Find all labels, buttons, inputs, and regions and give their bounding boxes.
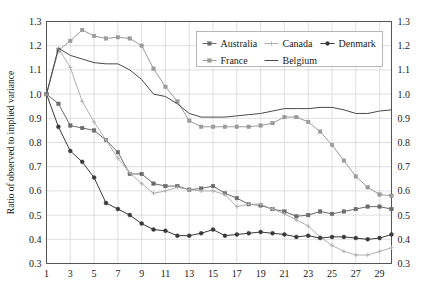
data-point-marker bbox=[211, 228, 215, 232]
data-point-marker bbox=[390, 207, 394, 211]
data-point-marker bbox=[140, 44, 144, 48]
data-point-marker bbox=[271, 121, 275, 125]
data-point-marker bbox=[326, 42, 330, 46]
legend-entry-label: Denmark bbox=[339, 38, 376, 49]
y-axis-tick-label-left: 0.3 bbox=[29, 258, 42, 269]
data-point-marker bbox=[306, 213, 310, 217]
data-point-marker bbox=[235, 125, 239, 129]
x-axis-tick-label: 25 bbox=[327, 268, 337, 279]
data-point-marker bbox=[366, 237, 370, 241]
x-axis-tick-label: 9 bbox=[139, 268, 144, 279]
data-point-marker bbox=[211, 184, 215, 188]
data-point-marker bbox=[128, 213, 132, 217]
data-point-marker bbox=[295, 115, 299, 119]
x-axis-tick-label: 17 bbox=[232, 268, 242, 279]
y-axis-tick-label-right: 1.3 bbox=[398, 16, 411, 27]
data-point-marker bbox=[390, 194, 394, 198]
chart-legend: AustraliaCanadaDenmarkFranceBelgium bbox=[197, 32, 383, 67]
data-point-marker bbox=[342, 235, 346, 239]
data-point-marker bbox=[223, 234, 227, 238]
data-point-marker bbox=[366, 205, 370, 209]
data-point-marker bbox=[164, 85, 168, 89]
data-point-marker bbox=[57, 102, 61, 106]
x-axis-tick-label: 1 bbox=[44, 268, 49, 279]
data-point-marker bbox=[247, 231, 251, 235]
y-axis-tick-label-right: 1.1 bbox=[398, 64, 411, 75]
data-point-marker bbox=[235, 232, 239, 236]
y-axis-title: Ratio of observed to implied variance bbox=[6, 71, 16, 214]
data-point-marker bbox=[152, 228, 156, 232]
y-axis-tick-label-right: 1.0 bbox=[398, 89, 411, 100]
data-point-marker bbox=[116, 35, 120, 39]
x-axis-tick-label: 7 bbox=[115, 268, 120, 279]
data-point-marker bbox=[342, 210, 346, 214]
y-axis-tick-label-left: 1.2 bbox=[29, 40, 42, 51]
series-line bbox=[47, 48, 392, 255]
data-point-marker bbox=[152, 182, 156, 186]
data-point-marker bbox=[247, 125, 251, 129]
y-axis-tick-label-left: 0.4 bbox=[29, 234, 42, 245]
y-axis-tick-label-right: 0.3 bbox=[398, 258, 411, 269]
data-point-marker bbox=[92, 176, 96, 180]
legend-entry-label: Belgium bbox=[283, 55, 318, 66]
data-point-marker bbox=[175, 234, 179, 238]
data-point-marker bbox=[199, 125, 203, 129]
data-point-marker bbox=[294, 235, 298, 239]
line-chart: 0.30.40.50.60.70.80.91.01.11.21.30.30.40… bbox=[0, 0, 431, 292]
data-point-marker bbox=[211, 125, 215, 129]
x-axis-tick-label: 3 bbox=[68, 268, 73, 279]
x-axis-tick-label: 19 bbox=[256, 268, 266, 279]
data-point-marker bbox=[128, 37, 132, 41]
data-point-marker bbox=[390, 232, 394, 236]
y-axis-tick-label-right: 1.2 bbox=[398, 40, 411, 51]
data-point-marker bbox=[208, 59, 212, 63]
y-axis-tick-label-left: 0.6 bbox=[29, 185, 42, 196]
y-axis-tick-label-right: 0.7 bbox=[398, 161, 411, 172]
data-point-marker bbox=[259, 230, 263, 234]
data-point-marker bbox=[208, 42, 212, 46]
y-axis-tick-label-left: 0.8 bbox=[29, 137, 42, 148]
data-point-marker bbox=[223, 125, 227, 129]
data-point-marker bbox=[116, 207, 120, 211]
data-point-marker bbox=[187, 234, 191, 238]
legend-entry-label: Australia bbox=[221, 38, 258, 49]
data-point-marker bbox=[354, 207, 358, 211]
data-point-marker bbox=[187, 119, 191, 123]
y-axis-tick-label-left: 1.1 bbox=[29, 64, 42, 75]
data-point-marker bbox=[366, 185, 370, 189]
data-point-marker bbox=[164, 184, 168, 188]
x-axis-tick-label: 29 bbox=[375, 268, 385, 279]
data-point-marker bbox=[306, 234, 310, 238]
data-point-marker bbox=[318, 130, 322, 134]
data-point-marker bbox=[92, 34, 96, 38]
legend-entry-label: France bbox=[221, 55, 249, 66]
x-axis-tick-label: 23 bbox=[303, 268, 313, 279]
data-point-marker bbox=[378, 236, 382, 240]
data-point-marker bbox=[140, 172, 144, 176]
data-point-marker bbox=[163, 229, 167, 233]
legend-entry-label: Canada bbox=[283, 38, 314, 49]
data-point-marker bbox=[318, 210, 322, 214]
data-point-marker bbox=[306, 120, 310, 124]
data-point-marker bbox=[235, 196, 239, 200]
data-point-marker bbox=[68, 39, 72, 43]
data-point-marker bbox=[68, 124, 72, 128]
data-point-marker bbox=[330, 212, 334, 216]
data-point-marker bbox=[56, 125, 60, 129]
data-point-marker bbox=[80, 160, 84, 164]
data-point-marker bbox=[92, 129, 96, 133]
data-point-marker bbox=[104, 201, 108, 205]
x-axis-tick-label: 21 bbox=[279, 268, 289, 279]
y-axis-tick-label-right: 0.5 bbox=[398, 210, 411, 221]
y-axis-tick-label-right: 0.9 bbox=[398, 113, 411, 124]
data-point-marker bbox=[342, 159, 346, 163]
x-axis-tick-label: 5 bbox=[92, 268, 97, 279]
y-axis-tick-label-left: 1.0 bbox=[29, 89, 42, 100]
data-point-marker bbox=[354, 175, 358, 179]
y-axis-tick-label-left: 0.5 bbox=[29, 210, 42, 221]
data-point-marker bbox=[330, 143, 334, 147]
data-point-marker bbox=[354, 236, 358, 240]
data-point-marker bbox=[199, 231, 203, 235]
y-axis-tick-label-right: 0.8 bbox=[398, 137, 411, 148]
data-point-marker bbox=[295, 215, 299, 219]
